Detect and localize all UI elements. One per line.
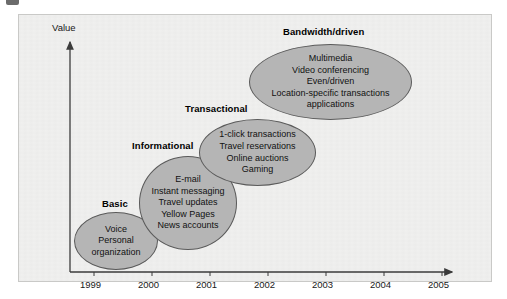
bubble-bandwidth-item-1: Video conferencing [292,65,369,77]
stage-label-informational: Informational [132,140,193,151]
bubble-bandwidth-item-0: Multimedia [309,53,353,65]
bubble-informational-item-0: E-mail [175,174,201,186]
bubble-informational-item-1: Instant messaging [151,186,224,198]
bubble-bandwidth-item-3: Location-specific transactions [271,88,389,100]
x-tick-label-2002: 2002 [254,279,275,290]
bubble-informational-item-3: Yellow Pages [161,209,215,221]
bubble-bandwidth-item-2: Even/driven [307,76,355,88]
stage-label-transactional: Transactional [185,103,248,114]
bubble-transactional-item-0: 1-click transactions [219,129,296,141]
stage-label-bandwidth: Bandwidth/driven [283,26,364,37]
figure-canvas: Value 1999 2000 2001 2002 2003 2004 2005… [0,0,507,299]
bubble-bandwidth[interactable]: Multimedia Video conferencing Even/drive… [249,44,412,120]
bubble-transactional-item-2: Online auctions [226,153,288,165]
bubble-informational-item-4: News accounts [157,220,218,232]
x-tick-label-2003: 2003 [312,279,333,290]
bubble-basic-item-2: organization [91,247,140,259]
stage-label-basic: Basic [102,198,128,209]
x-tick-label-2005: 2005 [428,279,449,290]
bubble-transactional-item-1: Travel reservations [219,141,295,153]
bubble-informational-item-2: Travel updates [158,197,217,209]
x-tick-label-2000: 2000 [138,279,159,290]
bubble-basic-item-0: Voice [105,224,127,236]
bubble-transactional-item-3: Gaming [242,164,274,176]
x-tick-label-1999: 1999 [80,279,101,290]
bubble-basic-item-1: Personal [98,235,134,247]
bubble-bandwidth-item-4: applications [307,99,355,111]
bubble-transactional[interactable]: 1-click transactions Travel reservations… [199,119,316,186]
x-tick-label-2004: 2004 [370,279,391,290]
y-axis-label: Value [52,22,76,33]
x-tick-label-2001: 2001 [196,279,217,290]
